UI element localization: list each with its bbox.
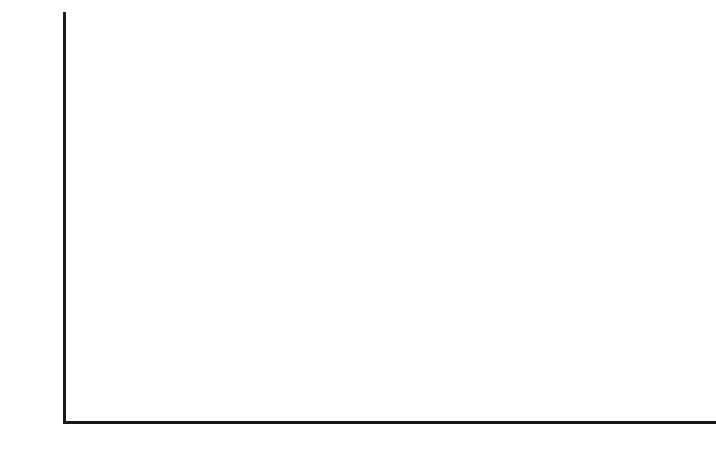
y-axis-tick-labels [0, 0, 58, 459]
x-axis-line [63, 421, 716, 424]
x-axis-tick-labels [0, 430, 716, 459]
bar-chart-figure [0, 0, 716, 459]
plot-area [63, 12, 716, 421]
